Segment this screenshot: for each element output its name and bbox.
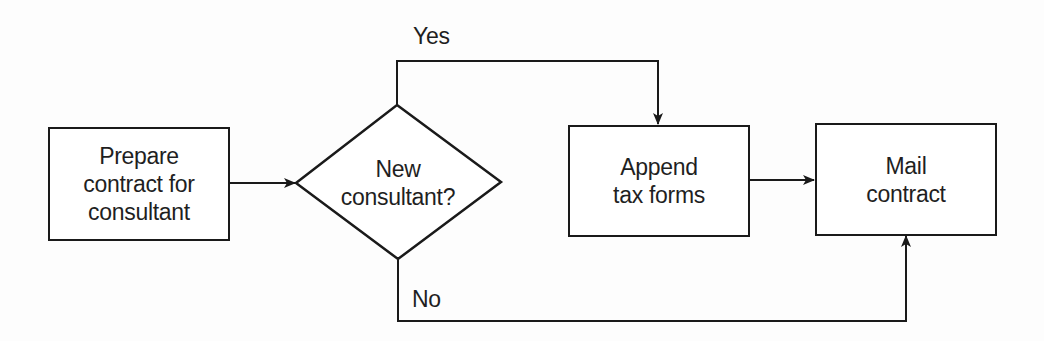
node-mail-contract-label: Mail contract <box>866 152 945 208</box>
edge-label-no: No <box>412 286 441 312</box>
node-append-tax-forms-label: Append tax forms <box>613 153 705 209</box>
node-prepare-contract: Prepare contract for consultant <box>48 127 230 241</box>
node-mail-contract: Mail contract <box>815 123 997 236</box>
node-append-tax-forms: Append tax forms <box>568 125 750 237</box>
flowchart-canvas: Prepare contract for consultant New cons… <box>0 0 1044 341</box>
arrow-yes-path <box>397 61 658 124</box>
node-prepare-contract-label: Prepare contract for consultant <box>83 142 194 226</box>
edge-label-yes: Yes <box>413 23 450 49</box>
node-decision-text: New consultant? <box>341 155 455 211</box>
node-decision-label: New consultant? <box>316 146 480 220</box>
arrow-no-path <box>398 236 906 321</box>
